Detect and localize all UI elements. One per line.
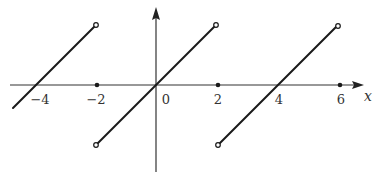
open-point xyxy=(94,143,99,148)
tick-label: 2 xyxy=(214,92,222,107)
tick-label: 0 xyxy=(162,92,170,107)
tick-label: −4 xyxy=(30,92,49,107)
sawtooth-plot: −4 −2 0 2 4 6 x xyxy=(0,0,381,179)
axes xyxy=(10,7,364,172)
tick-label: 4 xyxy=(275,92,283,107)
tick-label: 6 xyxy=(337,92,345,107)
open-point xyxy=(216,143,221,148)
tick-label: −2 xyxy=(86,92,105,107)
open-point xyxy=(94,23,99,28)
segment-1 xyxy=(13,27,94,108)
filled-point xyxy=(338,83,343,88)
open-point xyxy=(336,24,341,29)
open-point xyxy=(214,23,219,28)
x-tick-labels: −4 −2 0 2 4 6 xyxy=(30,92,345,107)
filled-point xyxy=(216,83,221,88)
filled-point xyxy=(95,83,100,88)
x-axis-label: x xyxy=(364,88,372,104)
